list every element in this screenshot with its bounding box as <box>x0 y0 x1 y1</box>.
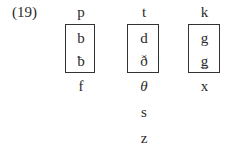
symbol-below: θ <box>128 78 160 94</box>
symbol-boxed: b <box>66 30 96 46</box>
symbol-top: t <box>128 4 160 20</box>
symbol-boxed: ǥ <box>189 53 220 69</box>
example-label: (19) <box>12 4 37 20</box>
symbol-boxed: ð <box>128 53 160 69</box>
symbol-top: p <box>66 4 96 20</box>
symbol-below: x <box>189 78 220 94</box>
symbol-below: s <box>128 104 160 120</box>
symbol-boxed: ƀ <box>66 53 96 69</box>
symbol-boxed: g <box>189 30 220 46</box>
symbol-boxed: d <box>128 30 160 46</box>
symbol-below: z <box>128 130 160 146</box>
symbol-top: k <box>189 4 220 20</box>
symbol-below: f <box>66 78 96 94</box>
